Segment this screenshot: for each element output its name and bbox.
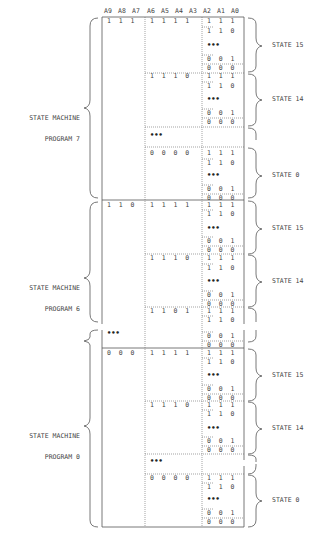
p6-s14-ellipsis: ••• xyxy=(207,278,220,285)
p6-s15-row: 1 1 1 xyxy=(207,202,234,209)
header-a9: A9 xyxy=(104,8,112,15)
p0-state-15-label: STATE 15 xyxy=(272,372,303,379)
program-gap-ellipsis: ••• xyxy=(107,330,120,337)
p6-s14-row: 1 1 1 xyxy=(207,255,234,262)
p6-s14-row: 1 1 0 xyxy=(207,265,234,272)
p6-s15-mid-bits: 1 1 1 1 xyxy=(150,202,189,209)
p7-s0-row: 1 1 0 xyxy=(207,160,234,167)
header-a6: A6 xyxy=(147,8,155,15)
gap-row: 0 0 1 xyxy=(207,333,234,340)
p6-s13-mid-bits: 1 1 0 1 xyxy=(150,308,189,315)
program-0-label: STATE MACHINE PROGRAM 0 xyxy=(2,419,80,475)
p6-s15-ellipsis: ••• xyxy=(207,225,220,232)
p7-s15-mid-bits: 1 1 1 1 xyxy=(150,18,189,25)
p6-s14-row: 0 0 1 xyxy=(207,292,234,299)
p0-s0-row: 1 1 1 xyxy=(207,475,234,482)
p7-s0-mid-bits: 0 0 0 0 xyxy=(150,150,189,157)
p7-s0-row: 0 0 1 xyxy=(207,186,234,193)
p0-s15-ellipsis: ••• xyxy=(207,372,220,379)
p0-s14-row: 0 0 0 xyxy=(207,447,234,454)
header-a7: A7 xyxy=(132,8,140,15)
p7-state-0-label: STATE 0 xyxy=(272,172,299,179)
header-a3: A3 xyxy=(189,8,197,15)
p0-s14-row: 0 0 1 xyxy=(207,438,234,445)
p0-state-gap-ellipsis: ••• xyxy=(150,458,163,465)
p0-s15-row: 0 0 1 xyxy=(207,386,234,393)
p0-s14-mid-bits: 1 1 1 0 xyxy=(150,402,189,409)
p7-s14-row: 0 0 1 xyxy=(207,110,234,117)
p6-s14-mid-bits: 1 1 1 0 xyxy=(150,255,189,262)
header-a2: A2 xyxy=(203,8,211,15)
p7-s0-row: 1 1 1 xyxy=(207,150,234,157)
p7-s15-row: 1 1 0 xyxy=(207,28,234,35)
p6-s13-row: 1 1 1 xyxy=(207,308,234,315)
p0-s0-row: 0 0 0 xyxy=(207,519,234,526)
p7-state-14-label: STATE 14 xyxy=(272,96,303,103)
gap-row: 0 0 0 xyxy=(207,342,234,349)
p6-s15-row: 1 1 0 xyxy=(207,211,234,218)
p0-s15-mid-bits: 1 1 1 1 xyxy=(150,350,189,357)
program-7-label: STATE MACHINE PROGRAM 7 xyxy=(2,101,80,157)
p0-s15-row: 1 1 1 xyxy=(207,350,234,357)
header-a5: A5 xyxy=(161,8,169,15)
p7-s14-row: 1 1 1 xyxy=(207,73,234,80)
p7-s0-ellipsis: ••• xyxy=(207,172,220,179)
p7-s15-row: 0 0 1 xyxy=(207,56,234,63)
p6-s13-row: 1 1 0 xyxy=(207,317,234,324)
header-a0: A0 xyxy=(231,8,239,15)
p6-s15-row: 0 0 0 xyxy=(207,247,234,254)
p0-s0-mid-bits: 0 0 0 0 xyxy=(150,475,189,482)
p7-s14-row: 0 0 0 xyxy=(207,119,234,126)
p7-s14-mid-bits: 1 1 1 0 xyxy=(150,73,189,80)
p7-s14-row: 1 1 0 xyxy=(207,83,234,90)
p7-state-15-label: STATE 15 xyxy=(272,42,303,49)
p0-s0-ellipsis: ••• xyxy=(207,496,220,503)
p0-s0-row: 0 0 1 xyxy=(207,510,234,517)
p0-s15-row: 1 1 0 xyxy=(207,359,234,366)
p0-s14-row: 1 1 0 xyxy=(207,411,234,418)
p7-s15-row: 0 0 0 xyxy=(207,65,234,72)
p0-state-0-label: STATE 0 xyxy=(272,497,299,504)
p0-s0-row: 1 1 0 xyxy=(207,484,234,491)
address-map-diagram: A9 A8 A7 A6 A5 A4 A3 A2 A1 A0 STATE MACH… xyxy=(0,0,326,536)
header-a1: A1 xyxy=(217,8,225,15)
p7-s15-ellipsis: ••• xyxy=(207,42,220,49)
program-6-label: STATE MACHINE PROGRAM 6 xyxy=(2,271,80,327)
p7-state-gap-ellipsis: ••• xyxy=(150,132,163,139)
p7-s15-row: 1 1 1 xyxy=(207,18,234,25)
p0-state-14-label: STATE 14 xyxy=(272,425,303,432)
header-a4: A4 xyxy=(175,8,183,15)
p6-s15-row: 0 0 1 xyxy=(207,238,234,245)
p0-high-bits: 0 0 0 xyxy=(107,350,134,357)
p0-s14-row: 1 1 1 xyxy=(207,402,234,409)
p0-s14-ellipsis: ••• xyxy=(207,425,220,432)
p7-s14-ellipsis: ••• xyxy=(207,96,220,103)
p6-high-bits: 1 1 0 xyxy=(107,202,134,209)
p6-state-15-label: STATE 15 xyxy=(272,225,303,232)
header-a8: A8 xyxy=(118,8,126,15)
p7-high-bits: 1 1 1 xyxy=(107,18,134,25)
p6-state-14-label: STATE 14 xyxy=(272,278,303,285)
